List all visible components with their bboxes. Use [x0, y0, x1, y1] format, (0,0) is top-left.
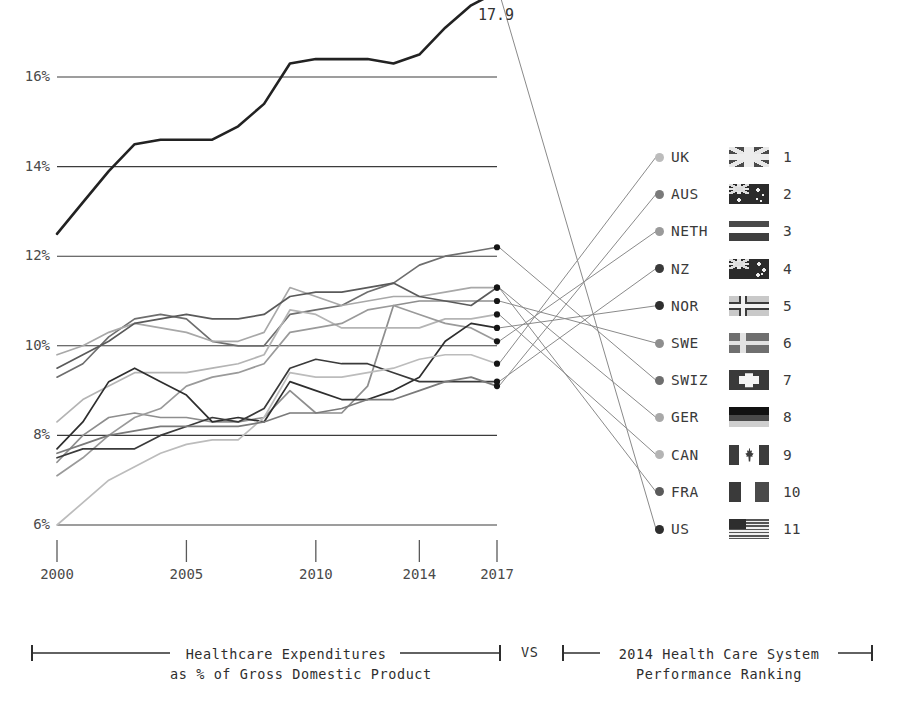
right-caption: 2014 Health Care System Performance Rank…: [600, 644, 838, 684]
left-caption-line1: Healthcare Expenditures: [186, 646, 387, 662]
left-caption-line2: as % of Gross Domestic Product: [170, 666, 432, 682]
chart-page: 6%8%10%12%14%16% 20002005201020142017 17…: [0, 0, 903, 703]
left-caption: Healthcare Expenditures as % of Gross Do…: [170, 644, 402, 684]
right-caption-line1: 2014 Health Care System: [619, 646, 820, 662]
caption-brackets: [0, 0, 903, 703]
vs-label: VS: [521, 644, 538, 660]
right-caption-line2: Performance Ranking: [636, 666, 802, 682]
